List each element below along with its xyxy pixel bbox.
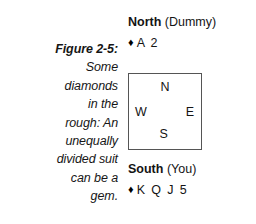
figure-label: Figure 2-5: [8, 40, 118, 58]
south-hand-header: South (You) [128, 162, 196, 177]
compass-west-label: W [135, 105, 147, 118]
south-role-label: (You) [167, 162, 196, 176]
compass-north-label: N [160, 81, 169, 94]
compass-south-label: S [159, 128, 167, 141]
diamond-suit-icon: ♦ [128, 181, 134, 197]
north-seat-label: North [128, 15, 161, 29]
caption-line: Some [8, 58, 118, 76]
compass-box: N W E S [128, 73, 202, 150]
diamond-suit-icon: ♦ [128, 34, 134, 50]
caption-line: rough: An [8, 114, 118, 132]
south-card-ranks: K Q J 5 [137, 183, 188, 197]
north-diamond-holding: ♦A 2 [128, 34, 216, 51]
north-role-label: (Dummy) [165, 15, 216, 29]
figure-caption: Figure 2-5: Some diamonds in the rough: … [8, 40, 118, 206]
caption-line: can be a [8, 169, 118, 187]
south-seat-label: South [128, 162, 163, 176]
caption-line: gem. [8, 187, 118, 205]
caption-line: unequally [8, 132, 118, 150]
north-card-ranks: A 2 [137, 36, 159, 50]
caption-line: in the [8, 95, 118, 113]
north-hand: North (Dummy) ♦A 2 [128, 15, 216, 51]
south-diamond-holding: ♦K Q J 5 [128, 181, 196, 198]
caption-line: diamonds [8, 77, 118, 95]
compass-east-label: E [186, 105, 194, 118]
caption-line: divided suit [8, 150, 118, 168]
south-hand: South (You) ♦K Q J 5 [128, 162, 196, 198]
north-hand-header: North (Dummy) [128, 15, 216, 30]
